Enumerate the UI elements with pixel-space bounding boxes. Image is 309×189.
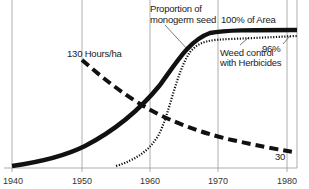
label-monogerm-line1: Proportion of: [150, 4, 202, 14]
label-hours-end: 30: [275, 152, 285, 162]
chart: Proportion of monogerm seed 100% of Area…: [0, 0, 309, 189]
chart-plot: [0, 0, 309, 189]
x-tick-1940: 1940: [3, 176, 23, 186]
series-hours-per-ha: [82, 60, 294, 152]
x-tick-1980: 1980: [277, 176, 297, 186]
x-tick-1970: 1970: [208, 176, 228, 186]
x-tick-1950: 1950: [72, 176, 92, 186]
x-tick-1960: 1960: [140, 176, 160, 186]
label-monogerm-line2: monogerm seed: [150, 15, 216, 25]
label-hours-start: 130 Hours/ha: [67, 49, 122, 59]
gridlines: [12, 0, 297, 172]
label-weed-line2: with Herbicides: [220, 58, 281, 68]
label-100-area: 100% of Area: [221, 15, 276, 25]
